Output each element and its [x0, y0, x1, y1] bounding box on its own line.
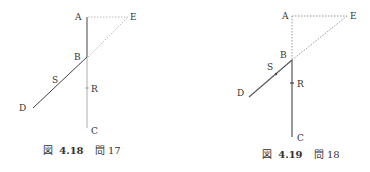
- figure-4-19: A E B S R D C 図 4.19 問 18: [237, 11, 357, 160]
- segment-BE: [88, 17, 128, 57]
- label-A: A: [74, 12, 82, 22]
- segment-BD: [33, 57, 87, 108]
- label-D: D: [237, 88, 244, 98]
- segment-BE: [292, 16, 347, 60]
- label-E: E: [350, 11, 357, 21]
- caption-number: 4.19: [278, 149, 302, 160]
- label-B: B: [74, 52, 81, 62]
- caption-number: 4.18: [59, 145, 83, 156]
- figure-caption: 図 4.18 問 17: [43, 145, 121, 156]
- label-D: D: [19, 103, 26, 113]
- caption-problem: 問 17: [95, 145, 121, 156]
- label-R: R: [297, 79, 304, 89]
- label-S: S: [267, 62, 273, 72]
- label-C: C: [91, 126, 98, 136]
- label-S: S: [52, 75, 58, 85]
- figure-4-18: A E B S R D C 図 4.18 問 17: [19, 12, 137, 156]
- caption-prefix: 図: [262, 149, 272, 160]
- label-A: A: [281, 11, 289, 21]
- caption-problem: 問 18: [314, 149, 340, 160]
- caption-prefix: 図: [43, 145, 53, 156]
- figure-caption: 図 4.19 問 18: [262, 149, 340, 160]
- point-S: [275, 73, 277, 75]
- label-E: E: [130, 12, 137, 22]
- label-B: B: [280, 50, 287, 60]
- diagram-canvas: A E B S R D C 図 4.18 問 17 A E B S R D: [0, 0, 370, 172]
- label-R: R: [91, 84, 98, 94]
- label-C: C: [297, 133, 304, 143]
